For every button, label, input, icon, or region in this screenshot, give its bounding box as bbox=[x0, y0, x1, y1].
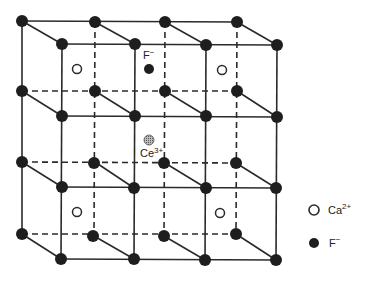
interstitial-f-ion bbox=[144, 64, 154, 74]
legend-ca-open-circle-icon bbox=[309, 205, 319, 215]
fluorite-lattice-diagram: F− Ce3+ Ca2+ F− bbox=[0, 0, 371, 281]
legend-f-filled-circle-icon bbox=[309, 238, 319, 248]
legend: Ca2+ F− bbox=[309, 202, 352, 249]
ce-ion bbox=[144, 135, 154, 145]
ce-ion-label: Ce3+ bbox=[140, 146, 164, 159]
lattice-svg: F− Ce3+ Ca2+ F− bbox=[0, 0, 371, 281]
legend-ca-label: Ca2+ bbox=[328, 202, 352, 216]
legend-f-label: F− bbox=[329, 235, 341, 249]
interstitial-f-label: F− bbox=[143, 48, 155, 61]
